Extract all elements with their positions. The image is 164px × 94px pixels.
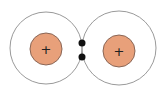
shared-electron [79,54,86,61]
positive-charge-icon: + [114,44,125,59]
shared-electron [79,40,86,47]
atom-left: + [10,12,82,84]
atom-right: + [82,11,156,85]
covalent-bond-diagram: ++ [0,0,164,94]
positive-charge-icon: + [41,42,52,57]
